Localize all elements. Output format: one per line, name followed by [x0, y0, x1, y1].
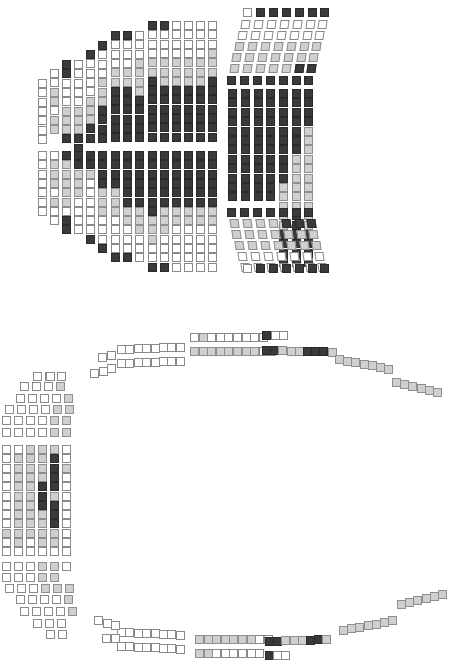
seat-available[interactable]	[2, 416, 11, 425]
seat-sold[interactable]	[279, 155, 288, 164]
seat-sold[interactable]	[160, 179, 169, 188]
seat-sold[interactable]	[172, 114, 181, 123]
seat-available[interactable]	[107, 351, 116, 360]
seat-sold[interactable]	[62, 151, 71, 160]
seat-sold[interactable]	[148, 133, 157, 142]
seat-available[interactable]	[184, 21, 193, 30]
seat-partial[interactable]	[86, 170, 95, 179]
seat-available[interactable]	[62, 445, 71, 454]
seat-available[interactable]	[74, 225, 83, 234]
seat-available[interactable]	[208, 40, 217, 49]
seat-partial[interactable]	[292, 155, 301, 164]
seat-available[interactable]	[318, 20, 328, 29]
seat-sold[interactable]	[256, 264, 265, 273]
seat-sold[interactable]	[208, 151, 217, 160]
seat-sold[interactable]	[228, 155, 237, 164]
seat-sold[interactable]	[228, 174, 237, 183]
seat-available[interactable]	[62, 529, 71, 538]
seat-sold[interactable]	[160, 114, 169, 123]
seat-sold[interactable]	[98, 41, 107, 50]
seat-sold[interactable]	[320, 8, 329, 17]
seat-sold[interactable]	[282, 8, 291, 17]
seat-partial[interactable]	[111, 78, 120, 87]
seat-partial[interactable]	[234, 42, 244, 51]
seat-partial[interactable]	[14, 538, 23, 547]
seat-partial[interactable]	[231, 230, 241, 239]
seat-sold[interactable]	[135, 133, 144, 142]
seat-sold[interactable]	[241, 117, 250, 126]
seat-sold[interactable]	[111, 96, 120, 105]
seat-partial[interactable]	[160, 68, 169, 77]
seat-available[interactable]	[276, 252, 286, 261]
seat-partial[interactable]	[172, 58, 181, 67]
seat-partial[interactable]	[50, 492, 59, 501]
seat-partial[interactable]	[286, 241, 296, 250]
seat-partial[interactable]	[292, 164, 301, 173]
seat-available[interactable]	[86, 225, 95, 234]
seat-available[interactable]	[111, 634, 120, 643]
seat-available[interactable]	[160, 30, 169, 39]
seat-sold[interactable]	[279, 98, 288, 107]
seat-available[interactable]	[196, 225, 205, 234]
seat-available[interactable]	[40, 394, 49, 403]
seat-available[interactable]	[32, 382, 41, 391]
seat-available[interactable]	[176, 343, 185, 352]
seat-sold[interactable]	[184, 123, 193, 132]
seat-available[interactable]	[111, 244, 120, 253]
seat-sold[interactable]	[304, 76, 313, 85]
seat-sold[interactable]	[172, 123, 181, 132]
seat-available[interactable]	[38, 179, 47, 188]
seat-sold[interactable]	[279, 127, 288, 136]
seat-available[interactable]	[208, 21, 217, 30]
seat-available[interactable]	[2, 547, 11, 556]
seat-available[interactable]	[14, 547, 23, 556]
seat-available[interactable]	[184, 30, 193, 39]
seat-sold[interactable]	[184, 95, 193, 104]
seat-sold[interactable]	[228, 145, 237, 154]
seat-available[interactable]	[52, 595, 61, 604]
seat-partial[interactable]	[62, 160, 71, 169]
seat-sold[interactable]	[253, 208, 262, 217]
seat-sold[interactable]	[172, 86, 181, 95]
seat-partial[interactable]	[111, 68, 120, 77]
seat-available[interactable]	[148, 253, 157, 262]
seat-sold[interactable]	[208, 77, 217, 86]
seat-sold[interactable]	[254, 89, 263, 98]
seat-partial[interactable]	[388, 616, 397, 625]
seat-partial[interactable]	[279, 192, 288, 201]
seat-sold[interactable]	[135, 160, 144, 169]
seat-available[interactable]	[176, 357, 185, 366]
seat-available[interactable]	[172, 21, 181, 30]
seat-sold[interactable]	[184, 86, 193, 95]
seat-partial[interactable]	[160, 77, 169, 86]
seat-partial[interactable]	[65, 584, 74, 593]
seat-partial[interactable]	[98, 88, 107, 97]
seat-available[interactable]	[305, 20, 315, 29]
seat-available[interactable]	[26, 416, 35, 425]
seat-partial[interactable]	[38, 562, 47, 571]
seat-available[interactable]	[28, 394, 37, 403]
seat-sold[interactable]	[294, 219, 304, 228]
seat-sold[interactable]	[227, 208, 236, 217]
seat-available[interactable]	[50, 188, 59, 197]
seat-sold[interactable]	[111, 151, 120, 160]
seat-sold[interactable]	[135, 198, 144, 207]
seat-sold[interactable]	[148, 151, 157, 160]
seat-sold[interactable]	[196, 133, 205, 142]
seat-sold[interactable]	[308, 8, 317, 17]
seat-sold[interactable]	[160, 198, 169, 207]
seat-available[interactable]	[281, 651, 290, 660]
seat-available[interactable]	[50, 69, 59, 78]
seat-available[interactable]	[2, 492, 11, 501]
seat-sold[interactable]	[123, 124, 132, 133]
seat-available[interactable]	[38, 416, 47, 425]
seat-available[interactable]	[44, 382, 53, 391]
seat-available[interactable]	[263, 31, 273, 40]
seat-sold[interactable]	[172, 170, 181, 179]
seat-available[interactable]	[5, 405, 14, 414]
seat-partial[interactable]	[50, 538, 59, 547]
seat-sold[interactable]	[279, 145, 288, 154]
seat-sold[interactable]	[135, 124, 144, 133]
seat-partial[interactable]	[123, 216, 132, 225]
seat-partial[interactable]	[196, 68, 205, 77]
